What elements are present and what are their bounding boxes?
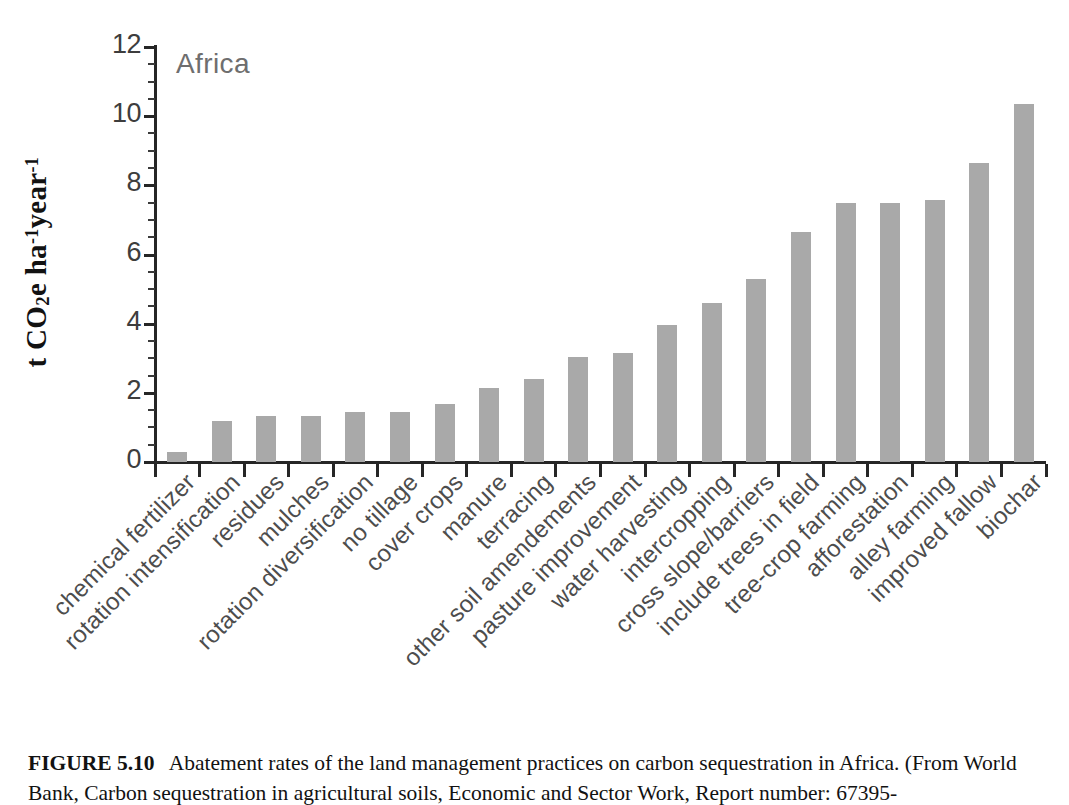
- x-axis-labels: chemical fertilizerrotation intensificat…: [0, 462, 1069, 742]
- bar: [969, 163, 989, 462]
- figure-5-10: t CO2e ha-1year-1 Africa 024681012 chemi…: [0, 0, 1069, 805]
- bar: [301, 416, 321, 462]
- bar: [345, 412, 365, 462]
- bar: [1014, 104, 1034, 462]
- bar: [880, 203, 900, 462]
- bar: [702, 303, 722, 462]
- bar: [479, 388, 499, 462]
- bars-group: [0, 0, 1069, 462]
- bar: [836, 203, 856, 462]
- bar: [212, 421, 232, 463]
- bar: [657, 325, 677, 462]
- bar: [925, 200, 945, 462]
- bar: [435, 404, 455, 462]
- figure-caption: FIGURE 5.10Abatement rates of the land m…: [28, 748, 1048, 805]
- figure-caption-label: FIGURE 5.10: [28, 751, 155, 775]
- figure-caption-text: Abatement rates of the land management p…: [28, 751, 1017, 805]
- bar: [167, 452, 187, 462]
- bar: [791, 232, 811, 462]
- bar-chart-plot: t CO2e ha-1year-1 Africa 024681012 chemi…: [0, 0, 1069, 500]
- bar: [390, 412, 410, 462]
- bar: [613, 353, 633, 462]
- bar: [256, 416, 276, 462]
- bar: [568, 357, 588, 462]
- bar: [746, 279, 766, 462]
- bar: [524, 379, 544, 462]
